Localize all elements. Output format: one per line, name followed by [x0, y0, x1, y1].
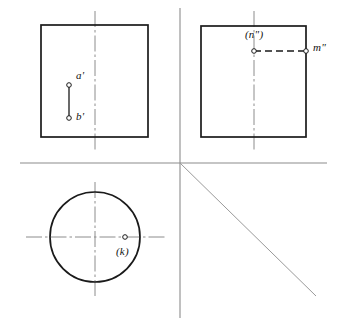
front-view-group — [41, 11, 148, 150]
label-k: (k) — [116, 246, 129, 257]
point-b-prime-marker — [67, 116, 72, 121]
label-a-prime: a' — [76, 70, 84, 81]
label-n-double-prime: (n") — [245, 29, 263, 40]
top-view-group — [26, 182, 165, 296]
miter-line — [180, 163, 316, 296]
point-m-double-prime-marker — [304, 49, 309, 54]
point-n-double-prime-marker — [252, 49, 257, 54]
point-a-prime-marker — [67, 83, 72, 88]
label-b-prime: b' — [76, 111, 84, 122]
point-k-marker — [123, 235, 128, 240]
projection-drawing-svg — [0, 0, 351, 331]
technical-drawing-canvas: a' b' (n") m" (k) — [0, 0, 351, 331]
label-m-double-prime: m" — [313, 42, 326, 53]
